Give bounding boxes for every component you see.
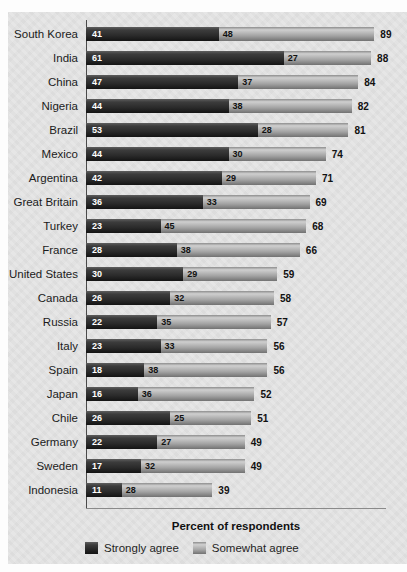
- bar-total-label: 68: [312, 221, 323, 232]
- bar-segment-somewhat-agree: 28: [122, 483, 213, 497]
- strongly-agree-value: 23: [86, 339, 102, 353]
- bar-segment-strongly-agree: 42: [86, 171, 222, 185]
- bar-rows: South Korea414889India612788China473784N…: [8, 22, 407, 502]
- bar-segment-strongly-agree: 17: [86, 459, 141, 473]
- category-label: Argentina: [8, 172, 86, 184]
- bar-segment-somewhat-agree: 32: [170, 291, 274, 305]
- bar-segment-somewhat-agree: 27: [284, 51, 371, 65]
- somewhat-agree-value: 33: [161, 339, 175, 353]
- bar-segment-strongly-agree: 23: [86, 219, 161, 233]
- stacked-bar: 112839: [86, 483, 229, 497]
- bar-segment-somewhat-agree: 38: [144, 363, 267, 377]
- bar-segment-somewhat-agree: 35: [157, 315, 270, 329]
- legend-item-somewhat-agree: Somewhat agree: [193, 542, 299, 554]
- category-label: Sweden: [8, 460, 86, 472]
- bar-row: France283866: [8, 238, 407, 262]
- category-label: France: [8, 244, 86, 256]
- bar-segment-somewhat-agree: 33: [203, 195, 310, 209]
- stacked-bar: 422971: [86, 171, 333, 185]
- strongly-agree-value: 22: [86, 315, 102, 329]
- bar-segment-somewhat-agree: 37: [238, 75, 358, 89]
- somewhat-agree-value: 36: [138, 387, 152, 401]
- bar-total-label: 59: [283, 269, 294, 280]
- bar-segment-strongly-agree: 18: [86, 363, 144, 377]
- bar-segment-strongly-agree: 36: [86, 195, 203, 209]
- bar-segment-strongly-agree: 44: [86, 99, 229, 113]
- bar-segment-strongly-agree: 28: [86, 243, 177, 257]
- bar-total-label: 84: [364, 77, 375, 88]
- bar-total-label: 71: [322, 173, 333, 184]
- somewhat-agree-value: 28: [122, 483, 136, 497]
- strongly-agree-value: 26: [86, 411, 102, 425]
- somewhat-agree-value: 45: [161, 219, 175, 233]
- x-axis-line: [86, 508, 386, 509]
- somewhat-agree-value: 27: [157, 435, 171, 449]
- somewhat-agree-value: 38: [177, 243, 191, 257]
- category-label: Nigeria: [8, 100, 86, 112]
- category-label: Turkey: [8, 220, 86, 232]
- bar-segment-strongly-agree: 41: [86, 27, 219, 41]
- strongly-agree-value: 28: [86, 243, 102, 257]
- x-axis-title: Percent of respondents: [86, 520, 386, 532]
- stacked-bar: 223557: [86, 315, 288, 329]
- somewhat-agree-value: 25: [170, 411, 184, 425]
- stacked-bar: 283866: [86, 243, 317, 257]
- bar-segment-strongly-agree: 11: [86, 483, 122, 497]
- bar-total-label: 56: [273, 365, 284, 376]
- bar-segment-strongly-agree: 53: [86, 123, 258, 137]
- category-label: Indonesia: [8, 484, 86, 496]
- stacked-bar: 302959: [86, 267, 294, 281]
- strongly-agree-value: 36: [86, 195, 102, 209]
- somewhat-agree-value: 38: [229, 99, 243, 113]
- stacked-bar: 222749: [86, 435, 262, 449]
- somewhat-agree-value: 30: [229, 147, 243, 161]
- somewhat-agree-value: 32: [170, 291, 184, 305]
- stacked-bar: 414889: [86, 27, 391, 41]
- strongly-agree-value: 61: [86, 51, 102, 65]
- category-label: Italy: [8, 340, 86, 352]
- bar-row: Russia223557: [8, 310, 407, 334]
- category-label: United States: [8, 268, 86, 280]
- stacked-bar: 473784: [86, 75, 375, 89]
- legend: Strongly agree Somewhat agree: [85, 542, 299, 554]
- bar-segment-strongly-agree: 22: [86, 315, 157, 329]
- bar-segment-somewhat-agree: 38: [229, 99, 352, 113]
- bar-total-label: 89: [380, 29, 391, 40]
- category-label: Canada: [8, 292, 86, 304]
- bar-row: Chile262551: [8, 406, 407, 430]
- bar-segment-somewhat-agree: 45: [161, 219, 307, 233]
- strongly-agree-value: 44: [86, 147, 102, 161]
- stacked-bar: 183856: [86, 363, 285, 377]
- category-label: Chile: [8, 412, 86, 424]
- bar-total-label: 39: [218, 485, 229, 496]
- bar-segment-somewhat-agree: 38: [177, 243, 300, 257]
- bar-segment-strongly-agree: 47: [86, 75, 238, 89]
- bar-row: Brazil532881: [8, 118, 407, 142]
- bar-total-label: 81: [354, 125, 365, 136]
- bar-total-label: 56: [273, 341, 284, 352]
- bar-row: Germany222749: [8, 430, 407, 454]
- bar-total-label: 82: [358, 101, 369, 112]
- bar-segment-somewhat-agree: 28: [258, 123, 349, 137]
- stacked-bar: 263258: [86, 291, 291, 305]
- bar-segment-somewhat-agree: 29: [183, 267, 277, 281]
- bar-total-label: 51: [257, 413, 268, 424]
- stacked-bar: 443074: [86, 147, 343, 161]
- stacked-bar: 234568: [86, 219, 323, 233]
- bar-segment-strongly-agree: 16: [86, 387, 138, 401]
- bar-total-label: 88: [377, 53, 388, 64]
- bar-segment-strongly-agree: 26: [86, 291, 170, 305]
- bar-row: Indonesia112839: [8, 478, 407, 502]
- bar-row: India612788: [8, 46, 407, 70]
- bar-total-label: 49: [251, 437, 262, 448]
- strongly-agree-value: 11: [86, 483, 102, 497]
- bar-segment-strongly-agree: 61: [86, 51, 284, 65]
- legend-label: Strongly agree: [104, 542, 179, 554]
- bar-row: Turkey234568: [8, 214, 407, 238]
- bar-row: South Korea414889: [8, 22, 407, 46]
- stacked-bar: 612788: [86, 51, 388, 65]
- bar-total-label: 52: [260, 389, 271, 400]
- bar-row: Canada263258: [8, 286, 407, 310]
- strongly-agree-value: 16: [86, 387, 102, 401]
- somewhat-agree-value: 27: [284, 51, 298, 65]
